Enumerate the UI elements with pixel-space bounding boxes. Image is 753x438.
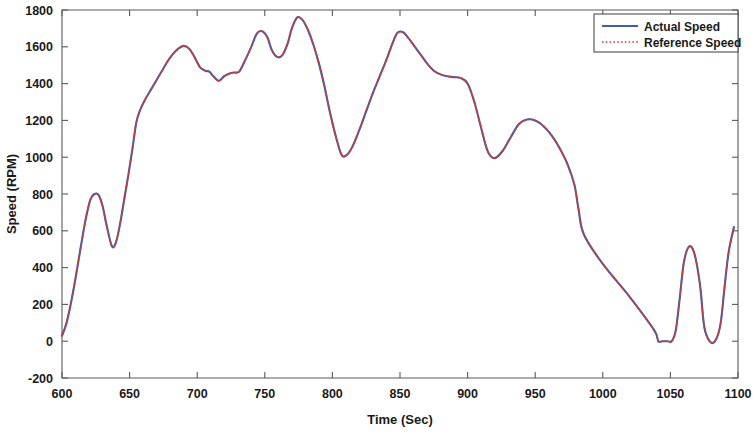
x-tick-label: 700 xyxy=(187,387,208,401)
x-tick-label: 1050 xyxy=(656,387,684,401)
legend-label-actual-speed: Actual Speed xyxy=(644,20,720,34)
x-tick-label: 900 xyxy=(457,387,478,401)
y-tick-label: -200 xyxy=(28,372,53,386)
x-tick-label: 750 xyxy=(254,387,275,401)
y-tick-label: 1800 xyxy=(25,4,53,18)
y-tick-label: 400 xyxy=(32,261,53,275)
y-tick-label: 1600 xyxy=(25,40,53,54)
figure-background xyxy=(0,0,753,438)
x-tick-label: 1000 xyxy=(589,387,617,401)
legend-label-reference-speed: Reference Speed xyxy=(644,36,741,50)
y-tick-label: 0 xyxy=(46,335,53,349)
chart-legend: Actual SpeedReference Speed xyxy=(594,14,741,52)
y-tick-label: 800 xyxy=(32,188,53,202)
x-axis-label: Time (Sec) xyxy=(367,412,433,427)
speed-vs-time-chart: 600650700750800850900950100010501100 -20… xyxy=(0,0,753,438)
x-tick-label: 850 xyxy=(390,387,411,401)
y-tick-label: 1000 xyxy=(25,151,53,165)
y-tick-label: 1200 xyxy=(25,114,53,128)
y-tick-label: 1400 xyxy=(25,77,53,91)
x-tick-label: 800 xyxy=(322,387,343,401)
y-axis-label: Speed (RPM) xyxy=(4,154,19,234)
y-tick-label: 200 xyxy=(32,298,53,312)
x-tick-label: 950 xyxy=(525,387,546,401)
y-tick-label: 600 xyxy=(32,224,53,238)
x-tick-label: 600 xyxy=(52,387,73,401)
x-tick-label: 650 xyxy=(119,387,140,401)
x-tick-label: 1100 xyxy=(724,387,751,401)
